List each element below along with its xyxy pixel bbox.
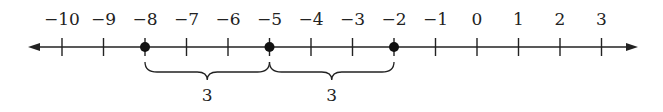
tick-label: 0 xyxy=(472,9,483,29)
brace-label: 3 xyxy=(326,85,337,105)
left-arrow-icon xyxy=(28,43,40,51)
right-arrow-icon xyxy=(626,43,638,51)
tick-label: −4 xyxy=(298,9,323,29)
tick-label: −10 xyxy=(44,9,80,29)
tick-labels: −10−9−8−7−6−5−4−3−2−10123 xyxy=(44,9,607,29)
brace-label: 3 xyxy=(202,85,213,105)
tick-label: −3 xyxy=(340,9,365,29)
point-marker xyxy=(140,42,150,52)
point-marker xyxy=(265,42,275,52)
number-line-diagram: −10−9−8−7−6−5−4−3−2−10123 33 xyxy=(0,0,663,112)
tick-label: 1 xyxy=(513,9,524,29)
tick-label: −9 xyxy=(91,9,116,29)
tick-label: 3 xyxy=(596,9,607,29)
tick-label: −1 xyxy=(423,9,448,29)
tick-label: −7 xyxy=(174,9,199,29)
point-marker xyxy=(389,42,399,52)
tick-label: −8 xyxy=(132,9,157,29)
tick-label: −6 xyxy=(215,9,240,29)
tick-label: −5 xyxy=(257,9,282,29)
tick-label: 2 xyxy=(555,9,566,29)
number-line-axis xyxy=(28,43,638,51)
braces: 33 xyxy=(145,62,394,105)
brace xyxy=(270,62,395,80)
tick-label: −2 xyxy=(381,9,406,29)
brace xyxy=(145,62,270,80)
